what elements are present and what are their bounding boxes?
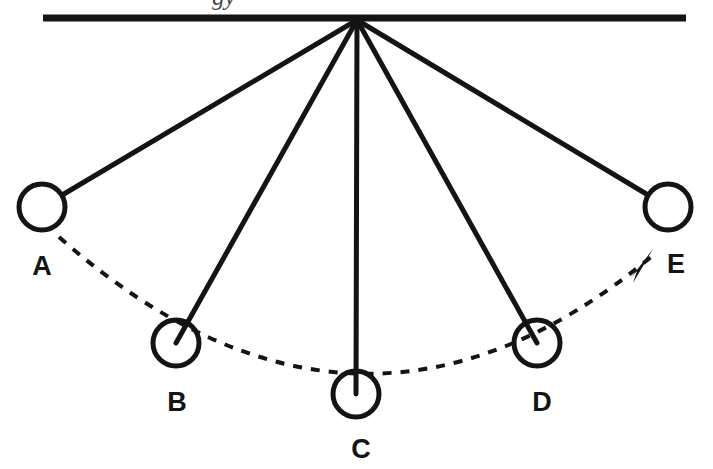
pendulum-diagram: gy A B C D E (0, 0, 713, 469)
pendulum-svg-canvas: A B C D E (0, 0, 713, 469)
position-label-a: A (32, 251, 52, 281)
pendulum-rod-b (176, 20, 357, 343)
position-label-b: B (167, 387, 187, 417)
pendulum-rod-a (42, 20, 357, 207)
position-label-e: E (667, 249, 685, 279)
pendulum-bob-a (19, 184, 65, 230)
swing-direction-arrowhead (630, 249, 653, 283)
pendulum-rod-e (357, 20, 668, 207)
pendulum-rod-group (42, 20, 668, 394)
position-label-d: D (532, 387, 552, 417)
position-label-c: C (351, 434, 371, 464)
pendulum-bob-e (645, 184, 691, 230)
pendulum-rod-d (357, 20, 537, 343)
pendulum-rod-c (356, 20, 357, 394)
